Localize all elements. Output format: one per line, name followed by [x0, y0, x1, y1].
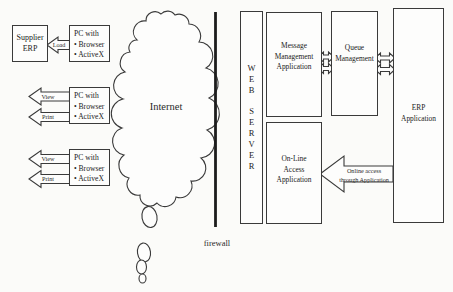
message-management-box: Message Management Application	[266, 12, 322, 117]
pc-box-1-item-browser: • Browser	[74, 40, 109, 51]
load-arrow-label: Load	[53, 41, 67, 48]
pc-box-2-title: PC with	[74, 91, 109, 102]
print-arrow-2-label: Print	[42, 175, 54, 182]
web-server-letter: R	[249, 161, 255, 172]
queue-erp-double-arrow-1	[375, 53, 395, 63]
web-server-letter: S	[249, 106, 254, 117]
diagram-canvas: Internet firewall Load View Print View P…	[0, 0, 453, 292]
cloud-tail-bubble-4	[139, 274, 146, 283]
web-server-letter: R	[249, 128, 255, 139]
pc-box-3-item-browser: • Browser	[74, 164, 109, 175]
web-server-letter: E	[249, 150, 254, 161]
pc-box-3-item-activex: • ActiveX	[74, 174, 109, 185]
view-arrow-2-label: View	[41, 155, 55, 162]
message-management-label-line1: Message	[267, 41, 321, 52]
web-server-letter: E	[249, 117, 254, 128]
pc-box-3: PC with • Browser • ActiveX	[69, 149, 110, 186]
online-access-arrow-label-line1: Online access	[347, 167, 382, 174]
supplier-erp-label-line1: Supplier	[13, 33, 47, 44]
internet-label: Internet	[150, 101, 183, 112]
pc-box-2-item-activex: • ActiveX	[74, 112, 109, 123]
firewall-label: firewall	[204, 238, 231, 248]
online-access-label-line1: On-Line	[267, 154, 321, 165]
pc-box-2: PC with • Browser • ActiveX	[69, 87, 110, 124]
queue-management-label-line2: Management	[332, 54, 377, 65]
online-access-arrow-label-line2: through Application	[339, 176, 389, 183]
web-server-box: W E B S E R V E R	[240, 11, 263, 224]
erp-application-label-line2: Application	[394, 114, 443, 125]
online-access-label-line2: Access	[267, 165, 321, 176]
cloud-tail-bubble-3	[137, 260, 147, 274]
pc-box-3-title: PC with	[74, 153, 109, 164]
diagram-shapes-layer: Internet firewall Load View Print View P…	[0, 0, 453, 292]
supplier-erp-label-line2: ERP	[13, 44, 47, 55]
queue-erp-double-arrow-2	[375, 65, 395, 75]
queue-management-label-line1: Queue	[332, 43, 377, 54]
pc-box-1-item-activex: • ActiveX	[74, 50, 109, 61]
online-access-box: On-Line Access Application	[266, 122, 322, 224]
online-access-arrow	[320, 156, 393, 192]
web-server-letter: V	[248, 139, 254, 150]
cloud-tail-bubble-2	[136, 242, 152, 263]
web-server-letter: E	[249, 74, 254, 85]
web-server-letter: W	[247, 63, 255, 74]
pc-box-1: PC with • Browser • ActiveX	[69, 25, 110, 62]
print-arrow-1-label: Print	[42, 113, 54, 120]
queue-management-box: Queue Management	[331, 11, 378, 116]
web-server-letter: B	[249, 85, 255, 96]
supplier-erp-box: Supplier ERP	[12, 25, 48, 62]
erp-application-label-line1: ERP	[394, 103, 443, 114]
erp-application-box: ERP Application	[393, 8, 444, 223]
pc-box-1-title: PC with	[74, 29, 109, 40]
online-access-label-line3: Application	[267, 175, 321, 186]
message-management-label-line2: Management	[267, 52, 321, 63]
view-arrow-1-label: View	[41, 93, 55, 100]
cloud-tail-bubble-1	[140, 205, 158, 228]
pc-box-2-item-browser: • Browser	[74, 102, 109, 113]
message-management-label-line3: Application	[267, 62, 321, 73]
